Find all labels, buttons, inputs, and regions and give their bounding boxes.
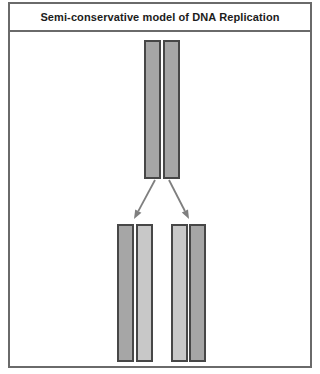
daughter-molecule-left: [118, 225, 152, 361]
daughter-left-parental-strand: [118, 225, 133, 361]
left-arrow-head-icon: [134, 209, 141, 219]
diagram-canvas: Semi-conservative model of DNA Replicati…: [0, 0, 320, 374]
daughter-molecule-right: [172, 225, 205, 361]
parent-strand-left: [145, 41, 160, 178]
parent-dna-molecule: [145, 41, 179, 178]
replication-arrows: [134, 180, 189, 219]
left-arrow-shaft: [138, 180, 155, 211]
daughter-left-new-strand: [137, 225, 152, 361]
right-arrow-head-icon: [182, 209, 189, 219]
right-arrow-shaft: [169, 180, 185, 211]
parent-strand-right: [164, 41, 179, 178]
daughter-right-parental-strand: [190, 225, 205, 361]
dna-replication-diagram: [10, 4, 310, 366]
figure-frame: Semi-conservative model of DNA Replicati…: [8, 2, 312, 368]
daughter-right-new-strand: [172, 225, 187, 361]
